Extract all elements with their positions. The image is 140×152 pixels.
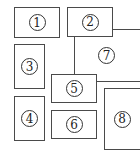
region-box-2: 2 bbox=[67, 7, 113, 37]
connector-line-5-right bbox=[96, 81, 140, 82]
region-label-3: 3 bbox=[21, 58, 38, 75]
region-box-3: 3 bbox=[14, 44, 45, 89]
region-box-5: 5 bbox=[51, 74, 97, 103]
region-label-2: 2 bbox=[82, 14, 99, 31]
region-label-6: 6 bbox=[66, 116, 83, 133]
connector-line-2-to-5 bbox=[74, 36, 75, 75]
region-label-8: 8 bbox=[114, 111, 131, 128]
region-box-1: 1 bbox=[14, 7, 60, 38]
region-label-7: 7 bbox=[98, 47, 115, 64]
region-label-1: 1 bbox=[29, 14, 46, 31]
region-label-5: 5 bbox=[66, 80, 83, 97]
connector-line-2-right bbox=[111, 29, 140, 30]
region-label-4: 4 bbox=[21, 110, 38, 127]
region-box-4: 4 bbox=[14, 96, 45, 141]
region-box-6: 6 bbox=[51, 110, 97, 139]
region-box-8: 8 bbox=[104, 88, 140, 150]
